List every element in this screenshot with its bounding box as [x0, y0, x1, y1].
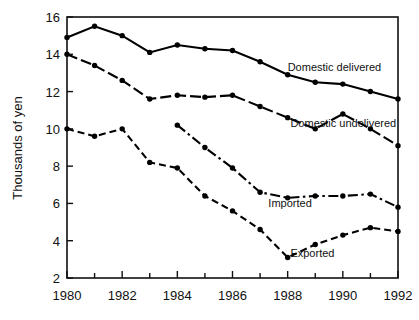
data-point	[368, 191, 373, 196]
data-point	[147, 50, 152, 55]
x-axis-tick-labels: 1980198219841986198819901992	[53, 288, 413, 303]
data-point	[202, 94, 207, 99]
y-tick-label: 10	[46, 122, 60, 137]
data-point	[313, 80, 318, 85]
y-tick-label: 12	[46, 85, 60, 100]
x-tick-label: 1992	[384, 288, 413, 303]
data-point	[64, 52, 69, 57]
data-point	[395, 204, 400, 209]
data-point	[230, 165, 235, 170]
data-point	[230, 93, 235, 98]
data-point	[64, 126, 69, 131]
series-line-exported	[67, 129, 398, 258]
data-point	[175, 165, 180, 170]
data-point	[368, 225, 373, 230]
data-point	[395, 143, 400, 148]
data-point	[147, 96, 152, 101]
series-label-exported: Exported	[290, 247, 334, 259]
series-label-domestic-delivered: Domestic delivered	[288, 61, 382, 73]
data-point	[175, 93, 180, 98]
x-axis-ticks	[67, 271, 398, 278]
x-tick-label: 1980	[53, 288, 82, 303]
data-point	[92, 24, 97, 29]
y-axis-title: Thousands of yen	[10, 96, 25, 199]
data-point	[257, 104, 262, 109]
data-point	[64, 35, 69, 40]
data-point	[119, 126, 124, 131]
y-tick-label: 16	[46, 10, 60, 25]
series-label-imported: Imported	[268, 197, 311, 209]
line-chart: 246810121416 198019821984198619881990199…	[0, 0, 419, 320]
data-point	[230, 208, 235, 213]
data-point	[257, 227, 262, 232]
data-point	[340, 81, 345, 86]
data-point	[92, 63, 97, 68]
x-tick-label: 1984	[163, 288, 192, 303]
y-tick-label: 14	[46, 47, 60, 62]
data-point	[175, 42, 180, 47]
x-tick-label: 1982	[108, 288, 137, 303]
y-tick-label: 8	[53, 159, 60, 174]
series-label-domestic-undelivered: Domestic undelivered	[290, 117, 396, 129]
series-line-imported	[177, 125, 398, 207]
data-point	[202, 46, 207, 51]
plot-area-border	[67, 17, 398, 278]
x-tick-label: 1986	[218, 288, 247, 303]
data-point	[257, 59, 262, 64]
y-tick-label: 2	[53, 271, 60, 286]
data-point	[202, 193, 207, 198]
data-point	[313, 242, 318, 247]
y-tick-label: 6	[53, 196, 60, 211]
data-point	[395, 96, 400, 101]
data-point	[92, 134, 97, 139]
data-point	[340, 111, 345, 116]
data-point	[230, 48, 235, 53]
data-point	[175, 122, 180, 127]
data-point	[395, 229, 400, 234]
x-tick-label: 1990	[328, 288, 357, 303]
y-axis-tick-labels: 246810121416	[46, 10, 60, 286]
data-point	[147, 160, 152, 165]
data-point	[119, 33, 124, 38]
y-tick-label: 4	[53, 234, 60, 249]
chart-container: 246810121416 198019821984198619881990199…	[0, 0, 419, 320]
data-point	[340, 232, 345, 237]
data-point	[368, 89, 373, 94]
x-tick-label: 1988	[273, 288, 302, 303]
series-annotations-group: Domestic deliveredDomestic undeliveredIm…	[268, 61, 396, 259]
data-point	[340, 193, 345, 198]
data-point	[257, 190, 262, 195]
plot-frame	[67, 17, 398, 278]
data-point	[313, 193, 318, 198]
data-point	[202, 145, 207, 150]
series-markers-group	[64, 24, 400, 261]
data-point	[119, 78, 124, 83]
